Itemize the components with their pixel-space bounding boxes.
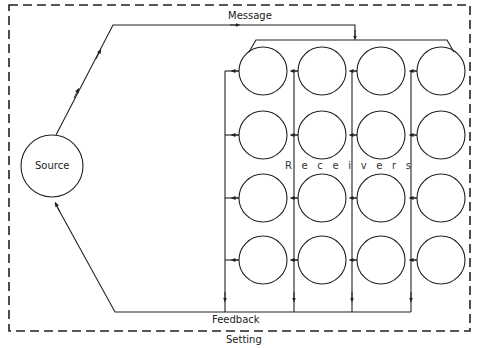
receiver-circle-r3-c3 bbox=[357, 174, 405, 222]
receiver-circle-r4-c4 bbox=[417, 236, 465, 284]
receiver-circle-r3-c2 bbox=[298, 174, 346, 222]
receiver-circle-r4-c2 bbox=[298, 236, 346, 284]
communication-diagram: Message Source Receivers Feedback Settin… bbox=[0, 0, 480, 348]
receiver-circle-r4-c3 bbox=[357, 236, 405, 284]
feedback-label: Feedback bbox=[212, 314, 260, 325]
feedback-to-source-arrow bbox=[56, 204, 60, 212]
receivers-letter: e bbox=[332, 160, 338, 171]
message-arrow-2 bbox=[96, 51, 100, 59]
receiver-circle-r3-c4 bbox=[417, 174, 465, 222]
receiver-circle-r1-c3 bbox=[357, 47, 405, 95]
message-line bbox=[56, 25, 355, 135]
receivers-letter: e bbox=[302, 160, 308, 171]
setting-label: Setting bbox=[226, 334, 262, 345]
receivers-letter: R bbox=[285, 160, 292, 171]
message-label: Message bbox=[228, 10, 272, 21]
receivers-letter: v bbox=[361, 160, 367, 171]
message-path bbox=[56, 25, 454, 135]
receivers-letter: s bbox=[406, 160, 411, 171]
receivers-letter: e bbox=[376, 160, 382, 171]
receiver-circle-r1-c4 bbox=[417, 47, 465, 95]
source-label: Source bbox=[35, 160, 69, 171]
receiver-circle-r3-c1 bbox=[239, 174, 287, 222]
receiver-circle-r2-c3 bbox=[357, 111, 405, 159]
receiver-circle-r2-c2 bbox=[298, 111, 346, 159]
receivers-label: Receivers bbox=[285, 160, 411, 171]
receivers-letter: c bbox=[317, 160, 323, 171]
message-bracket bbox=[249, 40, 454, 52]
receiver-circle-r2-c4 bbox=[417, 111, 465, 159]
receivers-letter: i bbox=[348, 160, 351, 171]
receiver-circle-r2-c1 bbox=[239, 111, 287, 159]
diagram-canvas bbox=[0, 0, 480, 348]
receiver-circle-r1-c1 bbox=[239, 47, 287, 95]
receiver-circle-r4-c1 bbox=[239, 236, 287, 284]
receivers-letter: r bbox=[392, 160, 396, 171]
receiver-circle-r1-c2 bbox=[298, 47, 346, 95]
